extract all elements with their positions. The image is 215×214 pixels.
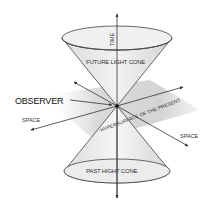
observer-point xyxy=(115,104,119,108)
space-right-label: SPACE xyxy=(180,133,199,139)
light-cone-diagram: HYPERSURFACE OF THE PRESENT TIME FUTURE … xyxy=(0,0,215,214)
observer-label: OBSERVER xyxy=(15,96,64,106)
future-light-cone-label: FUTURE LIGHT CONE xyxy=(86,59,145,65)
time-label: TIME xyxy=(109,33,115,46)
past-light-cone-label: PAST HIGHT CONE xyxy=(86,168,138,174)
space-left-label: SPACE xyxy=(22,117,41,123)
